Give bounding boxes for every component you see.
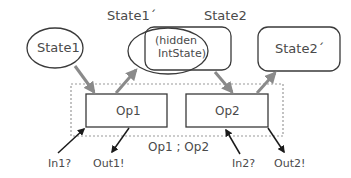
- arrow-in2-to-op2: [226, 130, 240, 154]
- hidden-intstate-label-line1: (hidden: [155, 35, 197, 47]
- in2-label: In2?: [232, 158, 255, 169]
- arrow-op2-to-out2: [268, 128, 284, 152]
- in1-label: In1?: [48, 158, 71, 169]
- hidden-intstate-label-line2: IntState): [158, 48, 206, 60]
- diagram-canvas: State1 State1´ State2 (hidden IntState) …: [0, 0, 351, 178]
- composition-label: Op1 ; Op2: [148, 141, 209, 153]
- arrow-op1-to-state1-prime: [116, 70, 136, 93]
- state1-label: State1: [37, 41, 80, 54]
- arrow-op2-to-state2-prime: [257, 73, 275, 93]
- op2-label: Op2: [215, 105, 240, 117]
- arrow-op1-to-out1: [112, 128, 129, 152]
- out1-label: Out1!: [93, 158, 124, 169]
- state2-label: State2: [204, 9, 247, 22]
- arrow-state2-to-op2: [215, 72, 232, 92]
- state2-prime-label: State2´: [275, 42, 324, 55]
- arrow-state1-to-op1: [75, 66, 94, 92]
- out2-label: Out2!: [274, 158, 305, 169]
- op1-label: Op1: [116, 105, 141, 117]
- arrow-in1-to-op1: [58, 129, 84, 153]
- state1-prime-label: State1´: [107, 9, 156, 22]
